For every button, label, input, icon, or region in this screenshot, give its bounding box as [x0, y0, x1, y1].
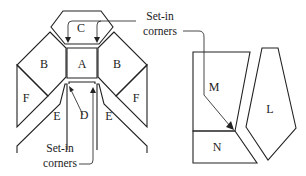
label-e-left: E [53, 109, 60, 123]
piece-b-right [98, 32, 147, 96]
top-callout-connector [183, 31, 230, 126]
label-a: A [78, 57, 87, 71]
label-m: M [209, 80, 220, 94]
top-callout-line2: corners [143, 25, 177, 37]
label-f-right: F [133, 91, 140, 105]
arrowhead-icon [94, 37, 100, 43]
label-n: N [213, 140, 222, 154]
bottom-callout-line1: Set-in [46, 142, 74, 154]
top-callout-line1: Set-in [146, 10, 174, 22]
bottom-callout-line2: corners [43, 157, 77, 169]
arrowhead-icon [90, 87, 96, 93]
right-pieces: M N L [193, 48, 296, 163]
label-b-right: B [113, 57, 121, 71]
quilt-block-diagram: C A B B F F E E D Set-in corners Set-in … [0, 0, 306, 176]
bottom-callout-leader-right [79, 90, 93, 164]
left-block-assembly: C A B B F F E E D Set-in corners Set-in … [17, 10, 234, 169]
piece-n [193, 131, 257, 163]
label-e-right: E [105, 109, 112, 123]
piece-d [69, 82, 95, 84]
label-l: L [266, 102, 273, 116]
piece-f-left [17, 65, 48, 127]
piece-f-right [116, 65, 147, 127]
piece-m [193, 52, 250, 131]
bottom-callout-leader-left [71, 90, 83, 115]
label-b-left: B [40, 57, 48, 71]
label-c: C [77, 21, 85, 35]
label-f-left: F [23, 91, 30, 105]
arrowhead-icon [69, 86, 74, 92]
arrowhead-icon [65, 37, 71, 43]
